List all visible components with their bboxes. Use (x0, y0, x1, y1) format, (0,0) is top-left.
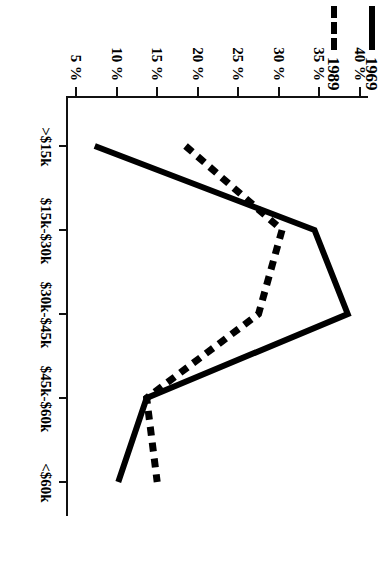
y-axis-tick: 40 % (359, 87, 361, 96)
x-axis-tick: $30k-$45k (59, 313, 68, 315)
plot-area: 40 %35 %30 %25 %20 %15 %10 %5 % >$15k$15… (68, 96, 368, 516)
y-axis-tick-label: 10 % (107, 47, 124, 81)
series-line-1969 (95, 146, 348, 482)
figure-page: 1969 1989 40 %35 %30 %25 %20 %15 %10 %5 … (0, 0, 386, 564)
y-axis-tick-label: 5 % (67, 55, 84, 81)
legend-swatch-dashed-icon (331, 6, 337, 50)
y-axis-tick: 30 % (278, 87, 280, 96)
y-axis-tick-label: 35 % (310, 47, 327, 81)
x-axis-tick: >$15k (59, 145, 68, 147)
y-axis-tick-label: 40 % (350, 47, 367, 81)
y-axis-tick-label: 30 % (269, 47, 286, 81)
x-axis-tick: <$60k (59, 481, 68, 483)
y-axis-tick-label: 25 % (229, 47, 246, 81)
x-axis-tick-label: $45k-$60k (37, 366, 54, 433)
y-axis-tick: 25 % (237, 87, 239, 96)
y-axis-tick: 20 % (197, 87, 199, 96)
x-axis-tick-label: <$60k (37, 463, 54, 502)
x-axis-tick-label: $30k-$45k (37, 282, 54, 349)
x-axis-tick-label: $15k-$30k (37, 198, 54, 265)
x-axis-tick: $45k-$60k (59, 397, 68, 399)
y-axis-tick-label: 20 % (188, 47, 205, 81)
y-axis-tick: 5 % (75, 87, 77, 96)
y-axis-tick: 35 % (318, 87, 320, 96)
series-line-1989 (147, 146, 282, 482)
x-axis-tick-label: >$15k (37, 127, 54, 166)
series-layer (68, 96, 368, 516)
legend-label-1989: 1989 (326, 57, 343, 90)
legend-swatch-solid-icon (369, 6, 375, 50)
y-axis-tick-label: 15 % (148, 47, 165, 81)
y-axis-tick: 10 % (116, 87, 118, 96)
x-axis-tick: $15k-$30k (59, 229, 68, 231)
chart-stage: 1969 1989 40 %35 %30 %25 %20 %15 %10 %5 … (0, 0, 386, 564)
y-axis-tick: 15 % (156, 87, 158, 96)
